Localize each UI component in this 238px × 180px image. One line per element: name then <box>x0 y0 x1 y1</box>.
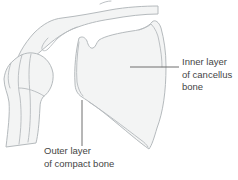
inner-layer-label-line1: Inner layer <box>182 56 232 69</box>
shoulder-bone-diagram: Inner layer of cancellus bone Outer laye… <box>0 0 238 180</box>
humerus-shape <box>4 53 53 147</box>
inner-layer-label: Inner layer of cancellus bone <box>182 56 232 94</box>
top-edge-fragment <box>100 1 111 4</box>
scapula-shape <box>75 21 166 149</box>
inner-layer-label-line2: of cancellus <box>182 69 232 82</box>
inner-layer-label-line3: bone <box>182 81 232 94</box>
outer-layer-label: Outer layer of compact bone <box>44 145 114 170</box>
outer-layer-label-line1: Outer layer <box>44 145 114 158</box>
outer-layer-label-line2: of compact bone <box>44 158 114 171</box>
